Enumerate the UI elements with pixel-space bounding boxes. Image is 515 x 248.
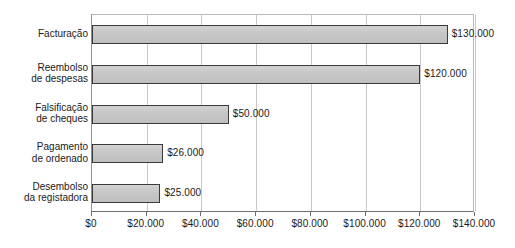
category-label: Facturação [2, 28, 88, 40]
x-tick-mark [146, 212, 147, 216]
gridline [366, 15, 367, 211]
bar-value-label: $25.000 [164, 183, 201, 202]
bar [92, 25, 448, 44]
category-label: Falsificação de cheques [2, 102, 88, 125]
category-axis-labels: FacturaçãoReembolso de despesasFalsifica… [0, 0, 88, 248]
gridline [311, 15, 312, 211]
x-tick-label: $0 [85, 218, 96, 229]
x-tick-label: $40.000 [182, 218, 219, 229]
x-tick-mark [419, 212, 420, 216]
x-tick-label: $80.000 [291, 218, 328, 229]
x-tick-label: $60.000 [237, 218, 274, 229]
x-tick-mark [474, 212, 475, 216]
bar [92, 184, 160, 203]
bar-value-label: $50.000 [233, 104, 270, 123]
gridline [475, 15, 476, 211]
x-tick-mark [255, 212, 256, 216]
category-label: Reembolso de despesas [2, 62, 88, 85]
x-tick-label: $140.000 [453, 218, 496, 229]
x-tick-mark [200, 212, 201, 216]
category-label: Pagamento de ordenado [2, 141, 88, 164]
plot-area [91, 14, 474, 212]
x-tick-mark [91, 212, 92, 216]
bar-chart: FacturaçãoReembolso de despesasFalsifica… [0, 0, 515, 248]
bar-value-label: $26.000 [167, 143, 204, 162]
bar [92, 105, 229, 124]
x-tick-label: $120.000 [398, 218, 441, 229]
gridline [420, 15, 421, 211]
bar [92, 65, 420, 84]
category-label: Desembolso da registadora [2, 181, 88, 204]
x-tick-label: $20.000 [127, 218, 164, 229]
x-tick-mark [365, 212, 366, 216]
x-tick-mark [310, 212, 311, 216]
bar-value-label: $130.000 [452, 24, 495, 43]
bar [92, 144, 163, 163]
x-tick-label: $100.000 [343, 218, 386, 229]
bar-value-label: $120.000 [424, 64, 467, 83]
